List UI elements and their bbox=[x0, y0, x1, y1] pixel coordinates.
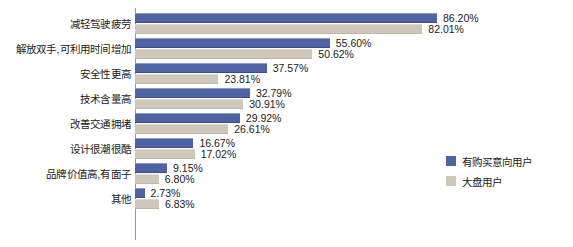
bar-fill bbox=[135, 188, 145, 198]
bar-series-blue: 55.60% bbox=[135, 38, 330, 48]
bar-series-beige: 17.02% bbox=[135, 149, 195, 159]
bar-series-blue: 9.15% bbox=[135, 163, 167, 173]
bar-value-label: 29.92% bbox=[246, 113, 282, 123]
bar-value-label: 37.57% bbox=[273, 63, 309, 73]
legend-swatch-icon bbox=[446, 156, 456, 166]
bar-value-label: 82.01% bbox=[428, 24, 464, 34]
legend-label: 大盘用户 bbox=[462, 174, 502, 189]
chart-row: 减轻驾驶疲劳86.20%82.01% bbox=[0, 12, 573, 37]
bar-value-label: 30.91% bbox=[249, 99, 285, 109]
category-label: 安全性更高 bbox=[0, 62, 135, 87]
bar-value-label: 17.02% bbox=[201, 149, 237, 159]
legend-label: 有购买意向用户 bbox=[462, 154, 532, 169]
legend-item[interactable]: 有购买意向用户 bbox=[446, 152, 570, 170]
bar-fill bbox=[135, 74, 218, 84]
bar-value-label: 9.15% bbox=[173, 163, 203, 173]
bar-fill bbox=[135, 124, 228, 134]
category-label: 设计很潮很酷 bbox=[0, 137, 135, 162]
bar-series-beige: 82.01% bbox=[135, 24, 422, 34]
chart-row: 安全性更高37.57%23.81% bbox=[0, 62, 573, 87]
bar-value-label: 86.20% bbox=[443, 13, 479, 23]
bar-series-beige: 26.61% bbox=[135, 124, 228, 134]
bar-series-blue: 29.92% bbox=[135, 113, 240, 123]
bar-fill bbox=[135, 63, 267, 73]
bar-fill bbox=[135, 99, 243, 109]
category-label: 改善交通拥堵 bbox=[0, 112, 135, 137]
chart-row: 技术含量高32.79%30.91% bbox=[0, 87, 573, 112]
bar-fill bbox=[135, 174, 159, 184]
plot-area: 减轻驾驶疲劳86.20%82.01%解放双手,可利用时间增加55.60%50.6… bbox=[0, 0, 573, 247]
chart-row: 解放双手,可利用时间增加55.60%50.62% bbox=[0, 37, 573, 62]
bar-series-beige: 6.80% bbox=[135, 174, 159, 184]
legend-item[interactable]: 大盘用户 bbox=[446, 172, 570, 190]
category-label: 技术含量高 bbox=[0, 87, 135, 112]
bar-series-blue: 32.79% bbox=[135, 88, 250, 98]
chart-legend: 有购买意向用户大盘用户 bbox=[446, 152, 570, 192]
bar-group: 32.79%30.91% bbox=[135, 87, 573, 112]
bar-fill bbox=[135, 13, 437, 23]
bar-value-label: 50.62% bbox=[318, 49, 354, 59]
bar-value-label: 6.80% bbox=[165, 174, 195, 184]
bar-value-label: 32.79% bbox=[256, 88, 292, 98]
bar-group: 37.57%23.81% bbox=[135, 62, 573, 87]
category-label: 品牌价值高,有面子 bbox=[0, 162, 135, 187]
bar-series-blue: 37.57% bbox=[135, 63, 267, 73]
bar-series-beige: 30.91% bbox=[135, 99, 243, 109]
bar-series-beige: 6.83% bbox=[135, 199, 159, 209]
bar-fill bbox=[135, 149, 195, 159]
bar-fill bbox=[135, 88, 250, 98]
bar-series-blue: 86.20% bbox=[135, 13, 437, 23]
bar-value-label: 16.67% bbox=[199, 138, 235, 148]
legend-swatch-icon bbox=[446, 176, 456, 186]
bar-fill bbox=[135, 138, 193, 148]
bar-value-label: 2.73% bbox=[151, 188, 181, 198]
bar-fill bbox=[135, 163, 167, 173]
category-label: 减轻驾驶疲劳 bbox=[0, 12, 135, 37]
bar-group: 29.92%26.61% bbox=[135, 112, 573, 137]
bar-series-blue: 2.73% bbox=[135, 188, 145, 198]
bar-value-label: 26.61% bbox=[234, 124, 270, 134]
bar-fill bbox=[135, 49, 312, 59]
chart-row: 改善交通拥堵29.92%26.61% bbox=[0, 112, 573, 137]
bar-chart: 减轻驾驶疲劳86.20%82.01%解放双手,可利用时间增加55.60%50.6… bbox=[0, 0, 573, 247]
category-label: 其他 bbox=[0, 187, 135, 212]
bar-value-label: 23.81% bbox=[224, 74, 260, 84]
bar-value-label: 55.60% bbox=[336, 38, 372, 48]
bar-fill bbox=[135, 38, 330, 48]
bar-fill bbox=[135, 24, 422, 34]
category-label: 解放双手,可利用时间增加 bbox=[0, 37, 135, 62]
bar-fill bbox=[135, 113, 240, 123]
bar-fill bbox=[135, 199, 159, 209]
bar-series-beige: 23.81% bbox=[135, 74, 218, 84]
bar-value-label: 6.83% bbox=[165, 199, 195, 209]
bar-series-beige: 50.62% bbox=[135, 49, 312, 59]
bar-group: 55.60%50.62% bbox=[135, 37, 573, 62]
bar-group: 86.20%82.01% bbox=[135, 12, 573, 37]
bar-series-blue: 16.67% bbox=[135, 138, 193, 148]
